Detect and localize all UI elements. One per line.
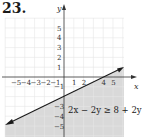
y-tick-label: −3 xyxy=(54,103,64,111)
y-tick-label: −5 xyxy=(54,123,64,131)
y-axis-arrow-icon xyxy=(62,4,66,10)
y-tick-label: −4 xyxy=(54,113,65,121)
shaded-solution-region xyxy=(5,67,124,137)
x-axis-arrow-icon xyxy=(131,75,137,79)
x-tick-label: 4 xyxy=(101,79,106,87)
x-axis-label: x xyxy=(134,82,139,91)
x-tick-label: 1 xyxy=(72,79,76,87)
inequality-graph: x y 5 4 3 2 1 −1 −3 −4 −5 −5 −4 −3 −2 −1… xyxy=(0,0,142,139)
y-tick-label: 2 xyxy=(57,54,61,62)
y-tick-label: 4 xyxy=(57,34,62,42)
y-tick-label: 5 xyxy=(57,25,61,33)
y-axis-label: y xyxy=(56,4,62,13)
x-tick-label: −1 xyxy=(50,79,60,87)
y-tick-label: 3 xyxy=(57,44,61,52)
y-tick-label: 1 xyxy=(57,64,61,72)
x-tick-label: −3 xyxy=(31,79,41,87)
x-tick-label: −2 xyxy=(40,79,50,87)
x-tick-label: 5 xyxy=(111,79,115,87)
x-tick-label: −5 xyxy=(11,79,21,87)
inequality-label: 2x − 2y ≥ 8 + 2y xyxy=(68,105,142,115)
